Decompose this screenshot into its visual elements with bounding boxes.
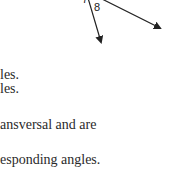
transversal-diagram: 7 8 [0, 0, 173, 60]
text-line-4: esponding angles. [0, 152, 100, 168]
angle-label-7: 7 [82, 0, 88, 5]
parallel-line [100, 0, 160, 28]
text-line-2: les. [0, 81, 19, 97]
text-line-3: ansversal and are [0, 117, 96, 133]
angle-label-8: 8 [94, 1, 100, 13]
